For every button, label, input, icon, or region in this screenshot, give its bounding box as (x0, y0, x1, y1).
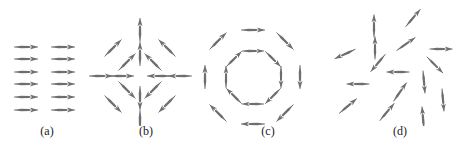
spin-arrow (373, 37, 378, 60)
spin-arrow (378, 102, 396, 123)
spin-arrow (391, 81, 408, 103)
spin-arrow (387, 70, 410, 75)
panel-label-b: (b) (126, 124, 166, 138)
spin-arrow (421, 70, 428, 93)
spin-arrow (420, 106, 427, 126)
spin-arrow (395, 35, 417, 52)
panel-d-arrows (0, 0, 467, 126)
panel-label-c: (c) (248, 124, 288, 138)
panel-label-d: (d) (380, 124, 420, 138)
spin-arrow (347, 82, 370, 87)
spin-configuration-figure: (a) (b) (c) (d) (0, 0, 467, 154)
spin-arrow (372, 15, 377, 38)
spin-arrow (404, 8, 422, 29)
spin-arrow (425, 55, 445, 75)
spin-arrow (369, 53, 387, 74)
spin-arrow (338, 97, 359, 115)
panel-label-a: (a) (27, 124, 67, 138)
spin-arrow (440, 88, 447, 111)
spin-arrow (430, 47, 453, 52)
spin-arrow (334, 47, 357, 61)
